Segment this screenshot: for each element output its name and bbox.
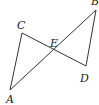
label-a: A xyxy=(5,93,14,105)
label-b: B xyxy=(90,0,99,8)
label-d: D xyxy=(79,72,89,85)
segment-ac xyxy=(10,33,22,90)
label-c: C xyxy=(17,19,26,32)
geometry-diagram: A B C D E xyxy=(0,0,99,105)
label-e: E xyxy=(49,37,58,50)
